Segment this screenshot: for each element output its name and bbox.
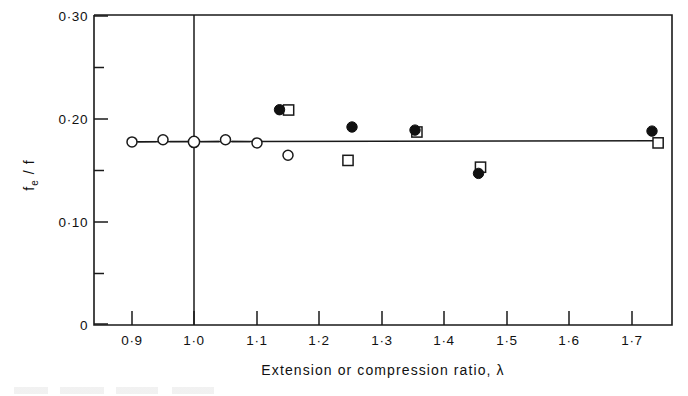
x-tick-label-15: 1·5 — [496, 333, 517, 348]
clipped-caption-artifact — [8, 387, 308, 394]
x-tick-label-12: 1·2 — [308, 333, 329, 348]
plot-frame — [94, 15, 672, 325]
data-point-filled-circle — [647, 126, 657, 136]
y-axis-title-tail: / f — [21, 159, 37, 174]
x-axis-title: Extension or compression ratio, λ — [261, 362, 504, 378]
x-tick-label-17: 1·7 — [621, 333, 642, 348]
data-point-open-square — [343, 155, 353, 165]
y-tick-label-030: 0·30 — [59, 9, 88, 24]
series-open-circle — [127, 135, 293, 161]
y-tick-label-020: 0·20 — [59, 112, 88, 127]
x-tick-label-14: 1·4 — [433, 333, 454, 348]
data-point-open-circle — [158, 135, 168, 145]
y-axis-tick-labels: 0·30 0·20 0·10 0 — [59, 9, 88, 333]
figure-container: 0·30 0·20 0·10 0 fe / f 0·9 1·0 — [0, 0, 688, 396]
y-axis-title-sub-e: e — [29, 179, 40, 186]
x-tick-label-10: 1·0 — [183, 333, 204, 348]
data-point-open-circle — [188, 136, 199, 147]
data-point-filled-circle — [274, 105, 284, 115]
y-tick-label-0: 0 — [80, 318, 88, 333]
svg-text:fe / f: fe / f — [21, 159, 40, 191]
data-point-open-circle — [221, 135, 231, 145]
x-tick-label-13: 1·3 — [371, 333, 392, 348]
data-point-filled-circle — [410, 125, 420, 135]
x-axis-ticks — [132, 311, 632, 325]
x-tick-label-11: 1·1 — [246, 333, 267, 348]
x-tick-label-09: 0·9 — [121, 333, 142, 348]
data-point-open-circle — [252, 138, 262, 148]
chart-canvas: 0·30 0·20 0·10 0 fe / f 0·9 1·0 — [0, 0, 688, 396]
data-point-filled-circle — [347, 122, 357, 132]
y-axis-title: fe / f — [21, 159, 40, 191]
data-point-open-circle — [283, 150, 293, 160]
data-point-open-square — [653, 138, 663, 148]
series-open-square — [284, 105, 664, 172]
y-axis-ticks — [94, 16, 108, 324]
data-point-filled-circle — [473, 168, 483, 178]
x-tick-label-16: 1·6 — [558, 333, 579, 348]
x-axis-tick-labels: 0·9 1·0 1·1 1·2 1·3 1·4 1·5 1·6 1·7 — [121, 333, 642, 348]
data-point-open-circle — [127, 137, 137, 147]
y-tick-label-010: 0·10 — [59, 215, 88, 230]
